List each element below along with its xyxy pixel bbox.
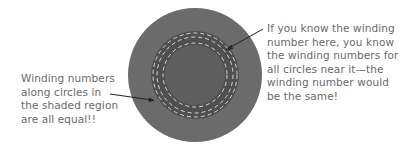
- right-annotation-line: the winding numbers for: [267, 49, 399, 63]
- left-annotation-line: are all equal!!: [21, 113, 118, 127]
- right-annotation: If you know the winding number here, you…: [267, 22, 399, 103]
- right-annotation-line: number here, you know: [267, 36, 399, 50]
- right-annotation-line: be the same!: [267, 90, 399, 104]
- right-annotation-line: winding number would: [267, 76, 399, 90]
- left-annotation: Winding numbers along circles in the sha…: [21, 72, 118, 126]
- left-annotation-line: along circles in: [21, 86, 118, 100]
- right-annotation-line: all circles near it—the: [267, 63, 399, 77]
- left-annotation-line: Winding numbers: [21, 72, 118, 86]
- inner-disk: [165, 45, 225, 105]
- right-annotation-line: If you know the winding: [267, 22, 399, 36]
- left-annotation-line: the shaded region: [21, 99, 118, 113]
